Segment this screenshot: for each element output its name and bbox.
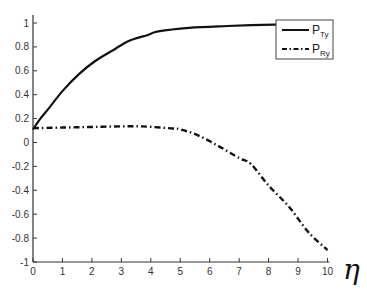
x-tick-label: 1 — [60, 266, 66, 277]
x-tick-label: 5 — [177, 266, 183, 277]
y-tick-label: -0.4 — [12, 185, 30, 196]
y-tick-label: -0.6 — [12, 209, 30, 220]
y-tick-label: -0.8 — [12, 233, 30, 244]
y-tick-label: 0.6 — [15, 65, 29, 76]
x-tick-label: 9 — [295, 266, 301, 277]
y-tick-label: 0.8 — [15, 41, 29, 52]
x-axis-label: η — [343, 253, 360, 286]
line-chart: -1-0.8-0.6-0.4-0.200.20.40.60.8101234567… — [0, 0, 367, 290]
x-tick-label: 7 — [236, 266, 242, 277]
x-tick-label: 0 — [30, 266, 36, 277]
legend: PTyPRy — [276, 20, 333, 59]
x-tick-label: 10 — [322, 266, 334, 277]
y-tick-label: 0.4 — [15, 89, 29, 100]
y-tick-label: 0.2 — [15, 113, 29, 124]
x-tick-label: 6 — [207, 266, 213, 277]
x-tick-label: 8 — [266, 266, 272, 277]
x-tick-label: 4 — [148, 266, 154, 277]
x-tick-label: 3 — [119, 266, 125, 277]
y-tick-label: 0 — [23, 137, 29, 148]
series-p-ry — [33, 126, 328, 250]
y-tick-label: -1 — [20, 257, 29, 268]
x-tick-label: 2 — [89, 266, 95, 277]
y-tick-label: 1 — [23, 18, 29, 29]
y-tick-label: -0.2 — [12, 161, 30, 172]
